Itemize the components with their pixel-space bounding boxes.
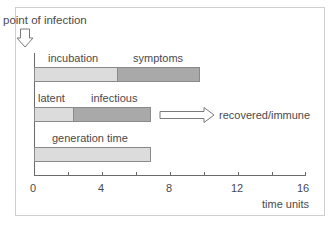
x-tick-12: 12 <box>231 182 243 195</box>
incubation-bar <box>34 67 118 82</box>
infectious-label: infectious <box>91 92 137 105</box>
recovered-immune-label: recovered/immune <box>219 109 310 122</box>
x-axis-label: time units <box>262 198 309 211</box>
x-tick-4: 4 <box>98 182 104 195</box>
generation-time-label: generation time <box>52 132 128 145</box>
symptoms-label: symptoms <box>133 52 183 65</box>
latent-bar <box>34 107 74 122</box>
infectious-bar <box>73 107 151 122</box>
incubation-label: incubation <box>48 52 98 65</box>
symptoms-bar <box>117 67 200 82</box>
right-arrow-icon <box>160 108 214 123</box>
x-tick-16: 16 <box>297 182 309 195</box>
generation-time-bar <box>34 147 151 162</box>
x-tick-0: 0 <box>30 182 36 195</box>
x-tick-8: 8 <box>166 182 172 195</box>
down-arrow-icon <box>17 29 33 47</box>
latent-label: latent <box>38 92 65 105</box>
